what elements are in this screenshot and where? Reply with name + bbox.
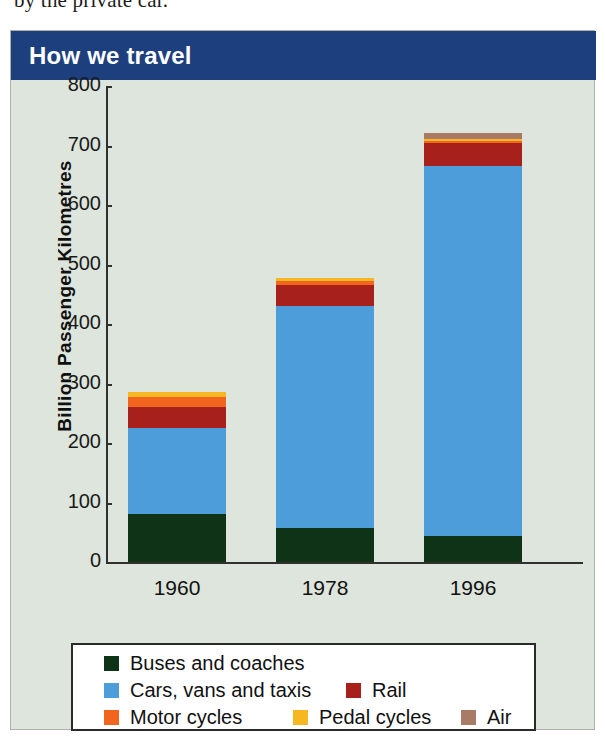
x-tick-label-1996: 1996 [408, 576, 538, 600]
chart-title: How we travel [29, 42, 192, 70]
legend-item[interactable]: Buses and coaches [104, 649, 305, 677]
bar-group-1996[interactable] [424, 86, 522, 562]
bar-segment[interactable] [276, 285, 374, 306]
y-tick-label: 200 [43, 430, 101, 453]
bar-segment[interactable] [424, 141, 522, 143]
legend-item[interactable]: Cars, vans and taxis [104, 676, 311, 704]
legend-item[interactable]: Motor cycles [104, 703, 242, 731]
y-tick-label: 600 [43, 192, 101, 215]
bar-segment[interactable] [424, 139, 522, 141]
bar-segment[interactable] [276, 306, 374, 527]
legend-label: Rail [372, 680, 406, 700]
legend-row: Cars, vans and taxisRail [73, 676, 534, 704]
bar-segment[interactable] [128, 514, 226, 562]
bar-segment[interactable] [424, 133, 522, 139]
legend-label: Pedal cycles [319, 707, 431, 727]
bar-stack [424, 86, 522, 562]
y-axis-tick-labels: 0100200300400500600700800 [39, 80, 101, 564]
page-body-text-snippet: by the private car. [14, 0, 168, 13]
bar-segment[interactable] [128, 392, 226, 396]
x-tick-label-1978: 1978 [260, 576, 390, 600]
y-tick-label: 300 [43, 371, 101, 394]
legend-item[interactable]: Air [461, 703, 511, 731]
bar-stack [276, 86, 374, 562]
y-tick-label: 500 [43, 252, 101, 275]
chart-figure-panel: How we travel Billion Passenger Kilometr… [10, 30, 595, 730]
bar-segment[interactable] [424, 166, 522, 537]
y-tick-label: 400 [43, 311, 101, 334]
legend-swatch-icon [461, 710, 476, 725]
legend-label: Cars, vans and taxis [130, 680, 311, 700]
y-tick-label: 700 [43, 133, 101, 156]
legend-swatch-icon [104, 710, 119, 725]
bar-segment[interactable] [276, 278, 374, 281]
bar-segment[interactable] [424, 536, 522, 562]
chart-legend: Buses and coachesCars, vans and taxisRai… [71, 643, 536, 731]
y-tick-label: 100 [43, 490, 101, 513]
bar-group-1978[interactable] [276, 86, 374, 562]
legend-item[interactable]: Rail [346, 676, 406, 704]
x-axis-line [106, 562, 583, 564]
legend-swatch-icon [104, 656, 119, 671]
x-tick-label-1960: 1960 [112, 576, 242, 600]
legend-row: Buses and coaches [73, 649, 534, 677]
legend-swatch-icon [104, 683, 119, 698]
bar-segment[interactable] [128, 407, 226, 428]
y-tick-label: 800 [43, 73, 101, 96]
chart-plot-area: Billion Passenger Kilometres 01002003004… [11, 80, 596, 731]
legend-swatch-icon [346, 683, 361, 698]
legend-swatch-icon [293, 710, 308, 725]
bar-segment[interactable] [276, 528, 374, 563]
legend-label: Motor cycles [130, 707, 242, 727]
bar-segment[interactable] [128, 428, 226, 514]
bar-series-layer [108, 86, 583, 562]
bar-segment[interactable] [276, 281, 374, 286]
legend-row: Motor cyclesPedal cyclesAir [73, 703, 534, 731]
legend-label: Air [487, 707, 511, 727]
legend-label: Buses and coaches [130, 653, 305, 673]
bar-group-1960[interactable] [128, 86, 226, 562]
bar-segment[interactable] [424, 143, 522, 166]
bar-segment[interactable] [128, 397, 226, 408]
legend-item[interactable]: Pedal cycles [293, 703, 431, 731]
bar-stack [128, 86, 226, 562]
y-tick-label: 0 [43, 549, 101, 572]
